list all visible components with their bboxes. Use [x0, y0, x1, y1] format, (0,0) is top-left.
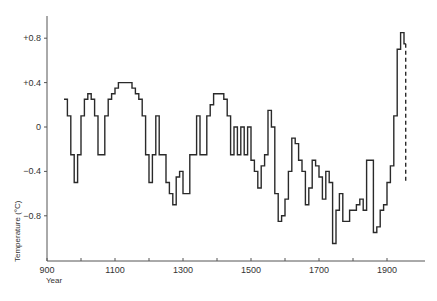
x-tick-label: 1900: [377, 265, 397, 275]
y-tick-label: −0.8: [23, 211, 41, 221]
temperature-series-line: [64, 33, 406, 244]
y-tick-label: 0: [36, 122, 41, 132]
x-tick-label: 1500: [241, 265, 261, 275]
x-tick-label: 1300: [173, 265, 193, 275]
y-tick-label: +0.8: [23, 33, 41, 43]
x-tick-label: 1700: [309, 265, 329, 275]
temperature-chart: +0.8+0.40−0.4−0.8 Temperature (°C) 90011…: [0, 0, 437, 301]
x-tick-label: 900: [39, 265, 54, 275]
y-axis: +0.8+0.40−0.4−0.8 Temperature (°C): [13, 16, 47, 262]
x-tick-label: 1100: [105, 265, 124, 275]
y-tick-label: +0.4: [23, 78, 41, 88]
x-axis: 90011001300150017001900 Year: [39, 258, 425, 285]
y-tick-label: −0.4: [23, 166, 41, 176]
y-axis-title: Temperature (°C): [13, 200, 22, 262]
x-axis-title: Year: [46, 276, 63, 285]
y-ticks: +0.8+0.40−0.4−0.8: [23, 33, 47, 221]
